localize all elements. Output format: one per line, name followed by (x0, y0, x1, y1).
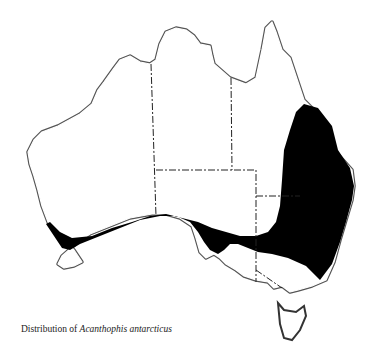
species-name: Acanthophis antarcticus (80, 324, 172, 334)
australia-distribution-map (0, 0, 379, 363)
caption-prefix: Distribution of (21, 324, 80, 334)
tasmania (278, 303, 306, 340)
map-caption: Distribution of Acanthophis antarcticus (21, 324, 172, 334)
